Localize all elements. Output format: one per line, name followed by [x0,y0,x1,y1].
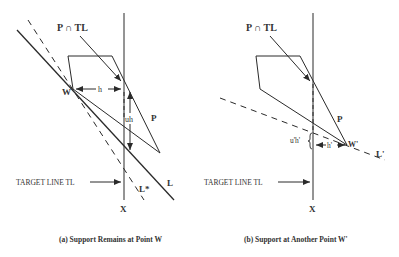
caption-b: (b) Support at Another Point W' [244,235,348,244]
intersection-arrow-b [270,36,310,81]
label-uh: uh [125,115,133,124]
label-h: h [98,85,102,94]
polygon-p-b [256,56,347,145]
polygon-p-a [68,56,160,153]
label-intersection-a: P ∩ TL [57,22,88,33]
brace-uh-b [308,133,312,149]
label-lstar: L* [139,184,150,194]
label-wprime: W' [348,140,358,149]
label-lprime: L' [376,149,385,159]
panel-b-labels: P ∩ TL W' h' u'h' P L' TARGET LINE TL X … [204,22,385,244]
label-p-a: P [151,113,157,123]
label-p-b: P [337,114,343,124]
panel-a [17,13,174,200]
label-target-line-b: TARGET LINE TL [204,178,263,187]
intersection-arrow-a [80,36,121,81]
label-x-a: X [120,204,127,214]
panel-b [220,13,385,200]
label-l: L [167,178,173,188]
line-lstar [28,20,144,200]
label-uhprime: u'h' [290,136,301,145]
diagram-canvas: P ∩ TL W h uh P L L* TARGET LINE TL X (a… [0,0,399,257]
caption-a: (a) Support Remains at Point W [59,235,162,244]
line-lprime [220,98,385,160]
label-intersection-b: P ∩ TL [246,22,277,33]
label-hprime: h' [327,141,333,150]
label-w: W [62,87,71,97]
label-x-b: X [309,204,316,214]
label-target-line-a: TARGET LINE TL [16,178,75,187]
